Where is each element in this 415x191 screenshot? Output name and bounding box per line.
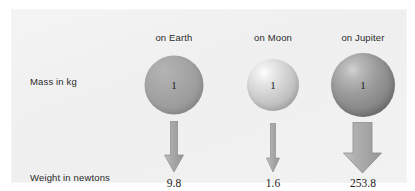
arrow-container-on-earth bbox=[119, 121, 229, 173]
weight-value-on-jupiter: 253.8 bbox=[308, 177, 415, 189]
sphere-icon: 1 bbox=[247, 59, 299, 111]
column-header-on-jupiter: on Jupiter bbox=[308, 32, 415, 43]
figure-panel: Mass in kg Weight in newtons on Earth 1 bbox=[11, 9, 407, 183]
sphere-icon: 1 bbox=[331, 53, 395, 117]
down-arrow-icon bbox=[162, 121, 186, 173]
mass-value-on-jupiter: 1 bbox=[360, 80, 366, 91]
weight-value-on-earth: 9.8 bbox=[119, 177, 229, 189]
down-arrow-icon bbox=[264, 123, 282, 173]
sphere-container-on-earth: 1 bbox=[119, 50, 229, 120]
arrow-container-on-jupiter bbox=[308, 122, 415, 174]
down-arrow-icon bbox=[342, 122, 384, 174]
row-label-mass: Mass in kg bbox=[30, 76, 77, 87]
mass-value-on-earth: 1 bbox=[171, 80, 177, 91]
column-header-on-earth: on Earth bbox=[119, 32, 229, 43]
row-label-weight: Weight in newtons bbox=[30, 172, 110, 183]
sphere-container-on-jupiter: 1 bbox=[308, 50, 415, 120]
weight-mass-comparison-figure: Mass in kg Weight in newtons on Earth 1 bbox=[0, 0, 415, 191]
column-on-jupiter: on Jupiter 1 bbox=[308, 18, 415, 191]
mass-value-on-moon: 1 bbox=[270, 80, 276, 91]
sphere-icon: 1 bbox=[145, 56, 204, 115]
column-on-earth: on Earth 1 bbox=[119, 18, 229, 191]
